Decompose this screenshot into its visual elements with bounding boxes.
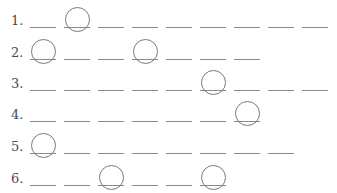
- answer-blank[interactable]: [234, 90, 260, 91]
- circle-icon: [201, 165, 226, 190]
- answer-blank[interactable]: [132, 153, 158, 154]
- answer-blank[interactable]: [98, 90, 124, 91]
- row-number: 5.: [11, 140, 23, 154]
- answer-blank[interactable]: [200, 153, 226, 154]
- answer-row: 6.: [0, 0, 337, 32]
- answer-blank[interactable]: [30, 121, 56, 122]
- answer-blank[interactable]: [268, 153, 294, 154]
- answer-blank[interactable]: [98, 121, 124, 122]
- answer-blank[interactable]: [166, 185, 192, 186]
- row-number: 4.: [11, 108, 23, 122]
- answer-blank[interactable]: [200, 121, 226, 122]
- answer-blank[interactable]: [166, 59, 192, 60]
- answer-blank[interactable]: [234, 153, 260, 154]
- circle-icon: [133, 39, 158, 64]
- circle-icon: [201, 70, 226, 95]
- answer-blank[interactable]: [132, 90, 158, 91]
- answer-blank[interactable]: [132, 185, 158, 186]
- circle-icon: [31, 39, 56, 64]
- answer-blank[interactable]: [64, 59, 90, 60]
- answer-blank[interactable]: [166, 90, 192, 91]
- answer-blank[interactable]: [98, 59, 124, 60]
- answer-blank[interactable]: [64, 121, 90, 122]
- answer-blank[interactable]: [234, 59, 260, 60]
- answer-blank[interactable]: [98, 153, 124, 154]
- answer-blank[interactable]: [302, 90, 328, 91]
- answer-blank[interactable]: [166, 121, 192, 122]
- answer-blank[interactable]: [200, 59, 226, 60]
- circle-icon: [235, 101, 260, 126]
- circle-icon: [31, 133, 56, 158]
- answer-blank[interactable]: [30, 90, 56, 91]
- row-number: 2.: [11, 46, 23, 60]
- answer-blank[interactable]: [30, 185, 56, 186]
- answer-blank[interactable]: [64, 153, 90, 154]
- row-number: 3.: [11, 77, 23, 91]
- row-number: 6.: [11, 172, 23, 186]
- answer-blank[interactable]: [64, 90, 90, 91]
- answer-blank[interactable]: [166, 153, 192, 154]
- circle-icon: [99, 165, 124, 190]
- answer-blank[interactable]: [268, 90, 294, 91]
- answer-blank[interactable]: [64, 185, 90, 186]
- answer-blank[interactable]: [132, 121, 158, 122]
